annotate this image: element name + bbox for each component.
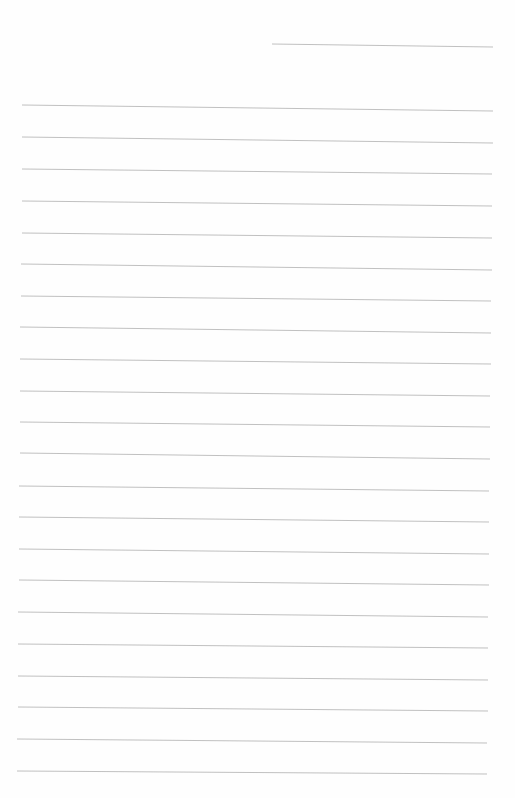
ruled-line	[22, 169, 492, 174]
ruled-line	[22, 233, 492, 238]
ruled-line	[21, 264, 492, 270]
ruled-line	[19, 517, 489, 522]
ruled-line	[19, 549, 489, 554]
ruled-line	[21, 296, 491, 301]
ruled-line	[17, 771, 487, 774]
ruled-line	[19, 580, 489, 585]
ruled-line	[22, 105, 493, 111]
ruled-line	[19, 486, 489, 491]
ruled-line	[20, 391, 490, 396]
ruled-line	[18, 612, 488, 617]
ruled-line	[20, 422, 490, 427]
ruled-line	[18, 676, 488, 680]
header-line	[272, 44, 493, 47]
ruled-line	[20, 453, 490, 459]
ruled-line	[18, 707, 488, 711]
lined-paper-page	[0, 0, 515, 798]
ruled-line	[22, 137, 493, 143]
ruled-lines	[0, 0, 515, 798]
ruled-line	[20, 327, 491, 333]
ruled-line	[17, 739, 487, 743]
ruled-line	[20, 359, 491, 364]
ruled-line	[22, 201, 492, 206]
ruled-line	[18, 644, 488, 648]
